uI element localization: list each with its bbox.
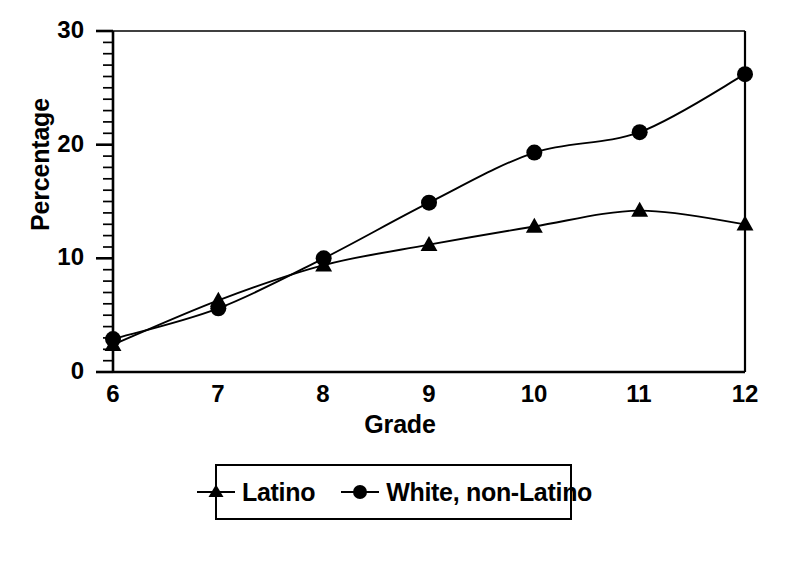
x-tick-label-11: 11 <box>609 380 669 408</box>
y-tick-label-10: 10 <box>24 243 84 271</box>
data-point <box>737 66 753 82</box>
x-tick-label-9: 9 <box>399 380 459 408</box>
data-point <box>632 124 648 140</box>
legend-label-latino: Latino <box>242 478 315 507</box>
y-tick-label-0: 0 <box>24 357 84 385</box>
circle-marker-icon <box>339 482 381 502</box>
legend-entry-white-non-latino: White, non-Latino <box>339 478 592 507</box>
x-tick-label-10: 10 <box>504 380 564 408</box>
y-axis-title: Percentage <box>26 55 55 275</box>
legend-label-white-non-latino: White, non-Latino <box>386 478 592 507</box>
x-tick-label-7: 7 <box>188 380 248 408</box>
x-axis-title: Grade <box>330 410 470 439</box>
x-tick-label-8: 8 <box>293 380 353 408</box>
data-point <box>526 145 542 161</box>
chart-legend: Latino White, non-Latino <box>215 464 572 520</box>
data-point <box>421 195 437 211</box>
y-tick-label-30: 30 <box>24 16 84 44</box>
legend-entry-latino: Latino <box>195 478 315 507</box>
triangle-marker-icon <box>195 482 237 502</box>
y-tick-label-20: 20 <box>24 130 84 158</box>
x-tick-label-6: 6 <box>83 380 143 408</box>
chart-figure: Percentage Grade 30 20 10 0 6 7 8 9 10 1… <box>0 0 800 562</box>
x-tick-label-12: 12 <box>715 380 775 408</box>
